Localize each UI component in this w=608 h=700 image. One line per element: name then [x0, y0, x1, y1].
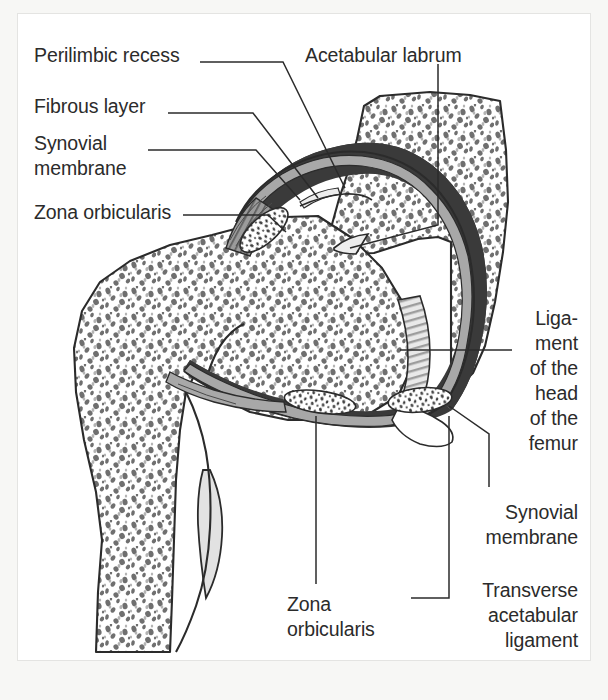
label-synovial-membrane-left: Synovial membrane: [34, 131, 274, 181]
lesser-trochanter: [176, 392, 222, 652]
label-zona-orbicularis-bottom: Zona orbicularis: [287, 592, 427, 642]
femoral-head-neck-shaft: [74, 216, 412, 652]
label-perilimbic-recess: Perilimbic recess: [34, 43, 274, 68]
label-acetabular-labrum: Acetabular labrum: [305, 43, 565, 68]
label-ligament-of-head-of-femur: Liga- ment of the head of the femur: [448, 306, 578, 456]
label-fibrous-layer: Fibrous layer: [34, 94, 274, 119]
label-synovial-membrane-right: Synovial membrane: [420, 500, 578, 550]
label-transverse-acetabular-ligament: Transverse acetabular ligament: [420, 578, 578, 653]
figure-page: Perilimbic recess Fibrous layer Synovial…: [0, 0, 608, 700]
label-zona-orbicularis-left: Zona orbicularis: [34, 200, 274, 225]
